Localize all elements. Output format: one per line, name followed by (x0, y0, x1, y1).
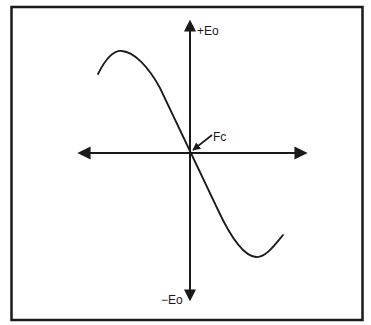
negative-output-label: −Eo (161, 293, 183, 307)
center-pointer-arrow (193, 135, 212, 150)
center-frequency-label: Fc (213, 130, 226, 144)
positive-output-label: +Eo (197, 24, 219, 38)
diagram-frame (12, 7, 363, 320)
diagram-canvas: +Eo −Eo Fc (0, 0, 371, 325)
